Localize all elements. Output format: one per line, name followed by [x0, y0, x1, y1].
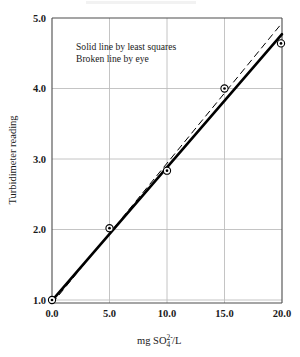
- y-axis-tick-labels: 5.0 4.0 3.0 2.0 1.0: [33, 13, 46, 306]
- annotation-line-broken: Broken line by eye: [76, 53, 149, 64]
- y-tick-label: 1.0: [33, 295, 46, 306]
- chart-figure: 5.0 4.0 3.0 2.0 1.0 0.0 5.0 10.0 15.0 20…: [0, 0, 300, 357]
- y-tick-label: 3.0: [33, 154, 46, 165]
- y-tick-label: 5.0: [33, 13, 46, 24]
- x-tick-label: 10.0: [158, 308, 176, 319]
- data-point: [48, 296, 55, 303]
- scan-artifact: [86, 1, 196, 4]
- x-tick-label: 0.0: [45, 308, 58, 319]
- y-axis-title: Turbidimeter reading: [7, 115, 18, 205]
- turbidimeter-calibration-chart: 5.0 4.0 3.0 2.0 1.0 0.0 5.0 10.0 15.0 20…: [0, 0, 300, 357]
- x-tick-label: 15.0: [215, 308, 233, 319]
- x-tick-label: 20.0: [273, 308, 291, 319]
- data-point: [106, 225, 113, 232]
- annotation-line-solid: Solid line by least squares: [76, 41, 176, 52]
- y-tick-label: 2.0: [33, 224, 46, 235]
- x-tick-label: 5.0: [103, 308, 116, 319]
- x-axis-title-prefix: mg SO: [137, 335, 167, 346]
- data-point: [221, 85, 228, 92]
- x-axis-title: mg SO 4 2- /L: [137, 333, 181, 350]
- y-tick-label: 4.0: [33, 83, 46, 94]
- x-axis-tick-labels: 0.0 5.0 10.0 15.0 20.0: [45, 308, 291, 319]
- data-point: [277, 40, 284, 47]
- x-axis-title-suffix: /L: [172, 335, 181, 346]
- data-point: [163, 167, 170, 174]
- chart-annotation: Solid line by least squares Broken line …: [76, 41, 176, 64]
